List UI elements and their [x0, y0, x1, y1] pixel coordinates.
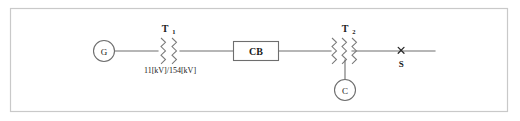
- fault-label: S: [399, 59, 404, 69]
- transformer-2: T 2: [332, 23, 357, 64]
- circuit-breaker[interactable]: CB: [234, 42, 279, 61]
- capacitor-label: C: [342, 86, 348, 96]
- transformer-1-label: T: [162, 23, 169, 34]
- transformer-2-winding-1: [332, 38, 337, 64]
- figure-root: G T 1 11[kV]/154[kV] CB T 2: [0, 0, 520, 121]
- circuit-breaker-label: CB: [249, 46, 263, 57]
- generator-node: G: [94, 41, 115, 62]
- single-line-diagram: G T 1 11[kV]/154[kV] CB T 2: [0, 0, 520, 121]
- transformer-1-winding-2: [172, 38, 177, 64]
- transformer-2-label: T: [342, 23, 349, 34]
- transformer-2-subscript: 2: [352, 28, 355, 35]
- transformer-1-subscript: 1: [172, 28, 175, 35]
- transformer-1-rating: 11[kV]/154[kV]: [144, 66, 196, 75]
- transformer-2-winding-2: [342, 38, 347, 64]
- generator-label: G: [101, 47, 108, 57]
- transformer-1: T 1 11[kV]/154[kV]: [144, 23, 196, 75]
- capacitor-node: C: [335, 80, 356, 101]
- transformer-1-winding-1: [161, 38, 166, 64]
